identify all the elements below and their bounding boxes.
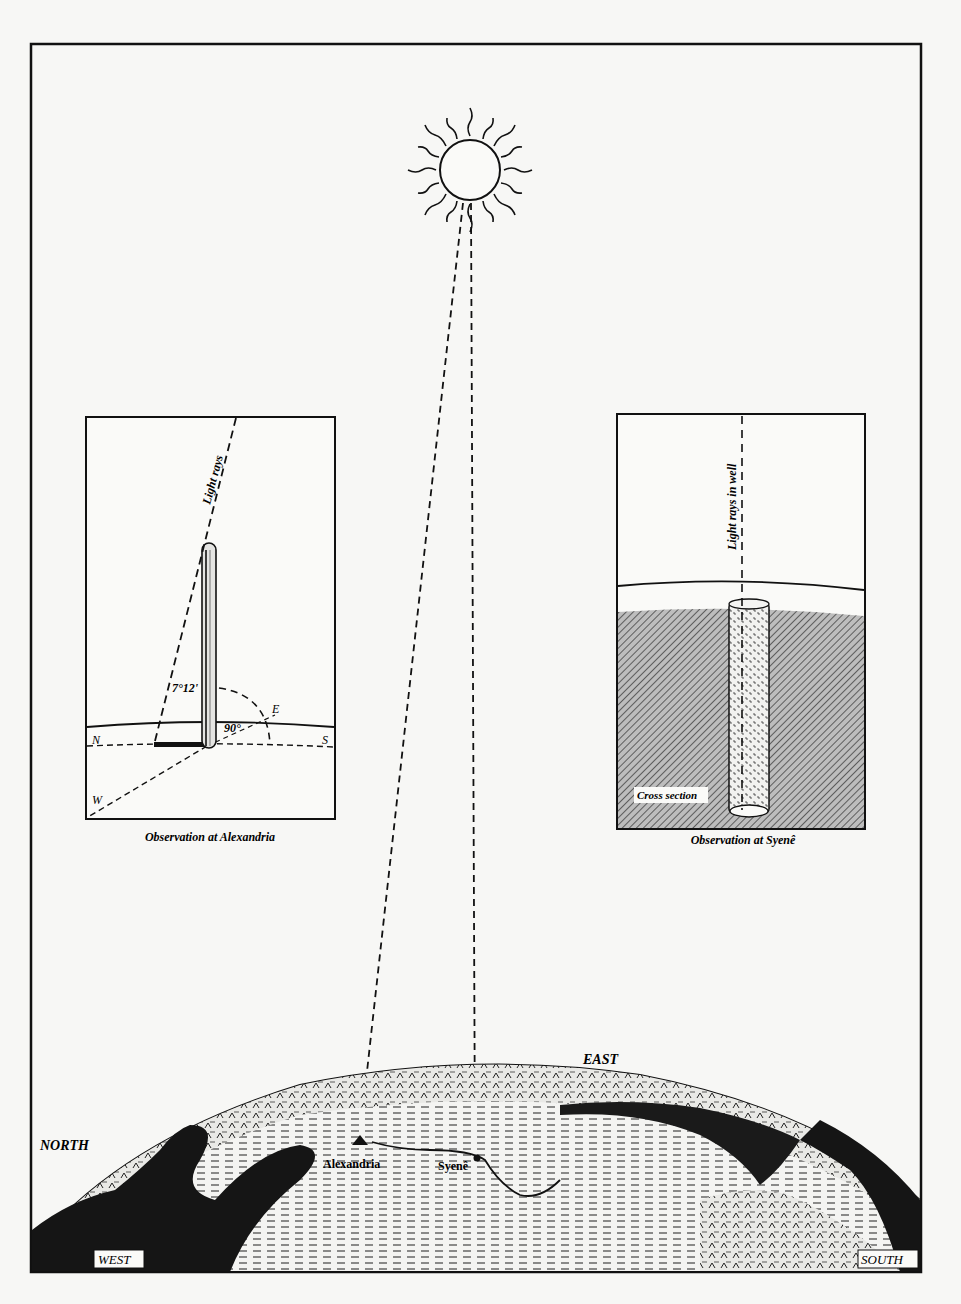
sun-ray-to-alexandria — [360, 203, 463, 1135]
right-angle-label: 90° — [224, 721, 241, 735]
light-rays-in-well-label: Light rays in well — [725, 463, 739, 551]
inset-alexandria: Light rays 7°12' 90° N E S W — [86, 417, 335, 819]
compass-west-label: W — [92, 793, 103, 807]
well — [729, 603, 769, 813]
inset-syene: Light rays in well Cross section — [617, 414, 865, 829]
eratosthenes-diagram: Light rays 7°12' 90° N E S W Observation… — [0, 0, 961, 1304]
compass-south-label: S — [322, 733, 328, 747]
direction-label-east: EAST — [582, 1052, 619, 1067]
caption-alexandria: Observation at Alexandria — [145, 830, 275, 844]
sun-ray-to-syene — [471, 203, 475, 1150]
city-label-syene: Syenê — [438, 1159, 469, 1173]
compass-east-label: E — [271, 702, 280, 716]
direction-label-west: WEST — [98, 1252, 131, 1267]
angle-label: 7°12' — [172, 681, 199, 695]
cross-section-label: Cross section — [637, 789, 697, 801]
obelisk — [202, 543, 216, 748]
sun-icon — [408, 108, 532, 232]
direction-label-south: SOUTH — [861, 1252, 904, 1267]
city-label-alexandria: Alexandria — [323, 1157, 380, 1171]
caption-syene: Observation at Syenê — [691, 833, 796, 847]
syene-marker — [474, 1155, 481, 1162]
compass-north-label: N — [91, 733, 101, 747]
direction-label-north: NORTH — [39, 1138, 90, 1153]
globe: Alexandria Syenê EAST NORTH WEST SOUTH — [32, 1052, 920, 1272]
